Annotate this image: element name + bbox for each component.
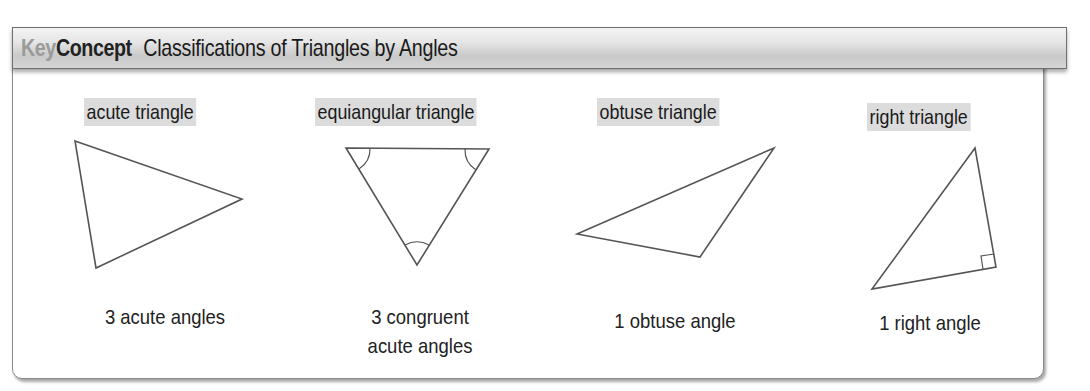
- right-triangle-description: 1 right angle: [846, 308, 1013, 337]
- angle-arc-icon: [405, 242, 429, 245]
- acute-triangle-shape: [75, 141, 242, 268]
- acute-triangle-description: 3 acute angles: [81, 302, 248, 331]
- description-line: acute angles: [336, 331, 503, 360]
- right-triangle-shape: [872, 148, 996, 289]
- equiangular-triangle-shape: [346, 148, 489, 265]
- angle-arc-icon: [465, 149, 476, 170]
- description-line: 3 congruent: [336, 302, 503, 331]
- right-angle-square-icon: [981, 254, 994, 269]
- obtuse-triangle-shape: [577, 148, 774, 257]
- equiangular-triangle-description: 3 congruent acute angles: [336, 302, 503, 360]
- obtuse-triangle-description: 1 obtuse angle: [591, 306, 758, 335]
- angle-arc-icon: [359, 148, 370, 169]
